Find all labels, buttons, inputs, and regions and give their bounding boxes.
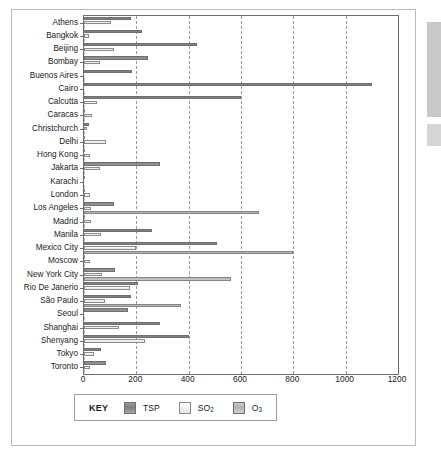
bar-group: Rio De Janerio <box>84 281 398 294</box>
bar-o3 <box>84 171 85 174</box>
y-axis-tick <box>80 89 84 90</box>
y-axis-label: Caracas <box>48 111 79 119</box>
bar-so2 <box>84 286 130 289</box>
legend-items: TSPSO2O3 <box>124 402 262 414</box>
y-axis-tick <box>80 62 84 63</box>
bar-group: Manila <box>84 228 398 241</box>
page-edge-strip-upper <box>427 22 441 117</box>
y-axis-label: Christchurch <box>32 125 78 133</box>
bar-group: Bangkok <box>84 29 398 42</box>
y-axis-label: Cairo <box>58 85 78 93</box>
bar-group: Beijing <box>84 43 398 56</box>
bar-rows: AthensBangkokBeijingBombayBuenos AiresCa… <box>84 16 398 374</box>
y-axis-label: Toronto <box>51 363 78 371</box>
y-axis-label: Manila <box>54 231 78 239</box>
bar-o3 <box>84 344 85 347</box>
bar-chart: AthensBangkokBeijingBombayBuenos AiresCa… <box>12 10 417 447</box>
y-axis-tick <box>80 142 84 143</box>
bar-tsp <box>84 361 106 364</box>
bar-group: London <box>84 188 398 201</box>
bar-o3 <box>84 330 85 333</box>
bar-so2 <box>84 339 145 342</box>
bar-tsp <box>84 335 189 338</box>
x-tick-label: 600 <box>233 374 247 384</box>
y-axis-label: Jakarta <box>51 164 78 172</box>
y-axis-label: Moscow <box>48 257 78 265</box>
bar-o3 <box>84 317 85 320</box>
plot-area: AthensBangkokBeijingBombayBuenos AiresCa… <box>83 15 399 375</box>
y-axis-tick <box>80 76 84 77</box>
bar-so2 <box>84 61 100 64</box>
bar-so2 <box>84 273 102 276</box>
bar-so2 <box>84 193 90 196</box>
bar-so2 <box>84 352 94 355</box>
bar-so2 <box>84 326 119 329</box>
bar-so2 <box>84 127 87 130</box>
y-axis-tick <box>80 314 84 315</box>
y-axis-label: Calcutta <box>48 98 78 106</box>
x-tick-label: 200 <box>128 374 142 384</box>
bar-group: Mexico City <box>84 241 398 254</box>
bar-tsp <box>84 123 89 126</box>
bar-o3 <box>84 291 85 294</box>
y-axis-tick <box>80 354 84 355</box>
bar-tsp <box>84 176 85 179</box>
bar-so2 <box>84 140 106 143</box>
y-axis-tick <box>80 195 84 196</box>
bar-group: Hong Kong <box>84 149 398 162</box>
bar-group: Seoul <box>84 308 398 321</box>
bar-so2 <box>84 260 90 263</box>
bar-group: Cairo <box>84 82 398 95</box>
bar-o3 <box>84 264 85 267</box>
y-axis-tick <box>80 208 84 209</box>
bar-o3 <box>84 251 293 254</box>
y-axis-label: Beijing <box>53 45 78 53</box>
bar-tsp <box>84 308 128 311</box>
y-axis-tick <box>80 275 84 276</box>
figure-frame: AthensBangkokBeijingBombayBuenos AiresCa… <box>11 9 416 446</box>
legend-swatch-tsp <box>124 402 136 414</box>
y-axis-tick <box>80 49 84 50</box>
bar-so2 <box>84 207 91 210</box>
y-axis-tick <box>80 129 84 130</box>
bar-group: Shenyang <box>84 334 398 347</box>
bar-tsp <box>84 56 148 59</box>
bar-tsp <box>84 162 160 165</box>
bar-tsp <box>84 242 217 245</box>
legend-swatch-o3 <box>233 402 245 414</box>
y-axis-label: Buenos Aires <box>30 72 78 80</box>
bar-tsp <box>84 189 85 192</box>
bar-tsp <box>84 149 85 152</box>
bar-so2 <box>84 21 111 24</box>
bar-group: Christchurch <box>84 122 398 135</box>
bar-group: São Paulo <box>84 294 398 307</box>
y-axis-tick <box>80 182 84 183</box>
y-axis-tick <box>80 288 84 289</box>
bar-o3 <box>84 25 85 28</box>
bar-tsp <box>84 70 132 73</box>
bar-so2 <box>84 366 90 369</box>
bar-group: Athens <box>84 16 398 29</box>
y-axis-label: Delhi <box>59 138 78 146</box>
bar-o3 <box>84 65 85 68</box>
bar-so2 <box>84 114 92 117</box>
y-axis-tick <box>80 248 84 249</box>
legend-key-label: KEY <box>89 403 108 413</box>
bar-group: Jakarta <box>84 162 398 175</box>
bar-o3 <box>84 357 85 360</box>
y-axis-tick <box>80 36 84 37</box>
bar-o3 <box>84 304 181 307</box>
y-axis-label: Tokyo <box>57 350 78 358</box>
y-axis-tick <box>80 341 84 342</box>
y-axis-label: Shanghai <box>43 324 78 332</box>
bar-o3 <box>84 39 85 42</box>
bar-so2 <box>84 34 89 37</box>
bar-group: Bombay <box>84 56 398 69</box>
bar-o3 <box>84 211 259 214</box>
y-axis-tick <box>80 328 84 329</box>
y-axis-label: New York City <box>27 271 78 279</box>
legend-item-tsp: TSP <box>124 402 160 414</box>
y-axis-tick <box>80 102 84 103</box>
bar-tsp <box>84 282 138 285</box>
bar-group: Buenos Aires <box>84 69 398 82</box>
